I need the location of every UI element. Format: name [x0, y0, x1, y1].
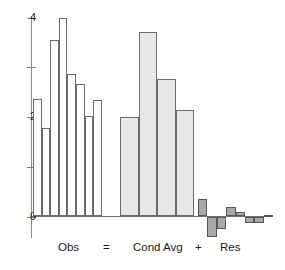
bar — [120, 117, 139, 216]
bar — [50, 40, 59, 217]
bar — [93, 100, 102, 216]
bar — [139, 32, 158, 217]
bar — [67, 74, 76, 216]
bar — [85, 116, 94, 216]
bar — [76, 84, 85, 216]
bar — [254, 217, 263, 224]
bar — [226, 207, 235, 217]
y-tick-minor — [27, 67, 36, 68]
bar — [264, 215, 273, 217]
bar — [236, 212, 245, 217]
bar — [198, 199, 207, 217]
bar — [157, 79, 176, 216]
decomposition-bar-chart: 024 Obs = Cond Avg + Res — [0, 0, 285, 270]
caption-res: Res — [220, 240, 240, 254]
bar — [245, 217, 254, 224]
bar — [59, 18, 68, 217]
caption-equals: = — [103, 240, 110, 254]
bar — [33, 99, 42, 216]
y-axis-line — [31, 16, 32, 238]
bar — [176, 110, 195, 216]
caption-obs: Obs — [58, 240, 79, 254]
y-tick-label: 4 — [14, 12, 36, 23]
bar — [42, 128, 51, 216]
caption-row: Obs = Cond Avg + Res — [0, 240, 285, 260]
bar — [217, 217, 226, 230]
bar — [207, 217, 216, 238]
caption-plus: + — [195, 240, 202, 254]
caption-cond-avg: Cond Avg — [133, 240, 183, 254]
